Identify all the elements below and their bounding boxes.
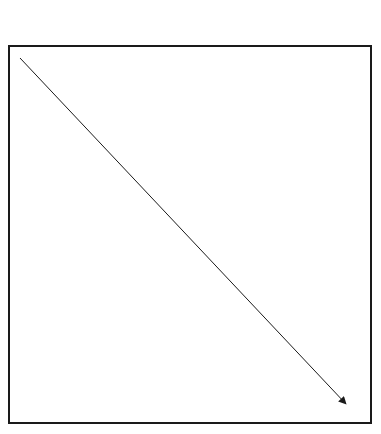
diagram-canvas [0, 0, 381, 434]
frame-box [9, 46, 371, 423]
diagonal-arrow [20, 58, 346, 404]
